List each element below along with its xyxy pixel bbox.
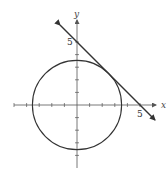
tangent-line: [60, 25, 155, 120]
x-axis-label: x: [161, 100, 166, 110]
y-axis-label: y: [73, 9, 80, 19]
y-axis: y: [73, 9, 80, 168]
y-intercept-label: 5: [67, 37, 73, 47]
x-intercept-label: 5: [137, 109, 143, 119]
diagram-canvas: x y 5 5: [0, 0, 168, 176]
